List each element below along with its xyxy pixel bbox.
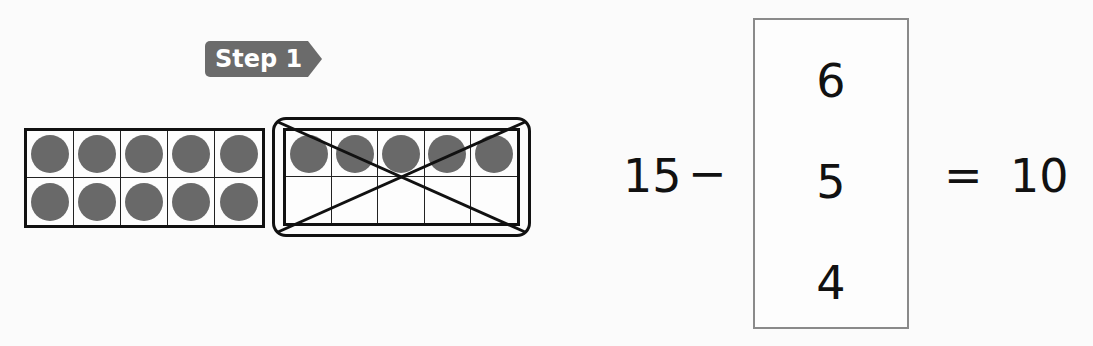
frame-cell	[378, 177, 424, 223]
frame-cell	[378, 131, 424, 177]
counter-icon	[220, 183, 258, 221]
choice-option[interactable]: 6	[755, 58, 907, 104]
counter-icon	[475, 135, 513, 173]
answer-choices-box: 6 5 4	[753, 18, 909, 329]
counter-icon	[382, 135, 420, 173]
frame-cell	[425, 131, 471, 177]
counter-icon	[172, 183, 210, 221]
result: 10	[1010, 153, 1069, 199]
counter-icon	[336, 135, 374, 173]
counter-icon	[78, 183, 116, 221]
frame-cell	[27, 131, 74, 178]
frame-cell	[168, 131, 215, 178]
counter-icon	[31, 135, 69, 173]
frame-cell	[27, 178, 74, 225]
ten-frame-crossed	[283, 128, 520, 226]
frame-cell	[471, 131, 517, 177]
frame-cell	[332, 177, 378, 223]
counter-icon	[125, 183, 163, 221]
frame-cell	[168, 178, 215, 225]
minus-sign: −	[688, 150, 727, 196]
frame-cell	[332, 131, 378, 177]
frame-cell	[286, 131, 332, 177]
choice-option[interactable]: 5	[755, 159, 907, 205]
counter-icon	[428, 135, 466, 173]
counter-icon	[290, 135, 328, 173]
step-arrow-icon	[308, 41, 322, 77]
counter-icon	[172, 135, 210, 173]
counter-icon	[31, 183, 69, 221]
frame-cell	[121, 178, 168, 225]
frame-cell	[121, 131, 168, 178]
frame-cell	[471, 177, 517, 223]
step-label: Step 1	[205, 41, 308, 77]
frame-cell	[425, 177, 471, 223]
frame-cell	[215, 131, 262, 178]
choice-option[interactable]: 4	[755, 260, 907, 306]
counter-icon	[220, 135, 258, 173]
frame-cell	[74, 178, 121, 225]
counter-icon	[125, 135, 163, 173]
ten-frame-full	[24, 128, 265, 228]
counter-icon	[78, 135, 116, 173]
step-badge: Step 1	[205, 41, 322, 77]
equals-sign: =	[944, 152, 983, 198]
frame-cell	[74, 131, 121, 178]
frame-cell	[215, 178, 262, 225]
minuend: 15	[623, 153, 682, 199]
frame-cell	[286, 177, 332, 223]
